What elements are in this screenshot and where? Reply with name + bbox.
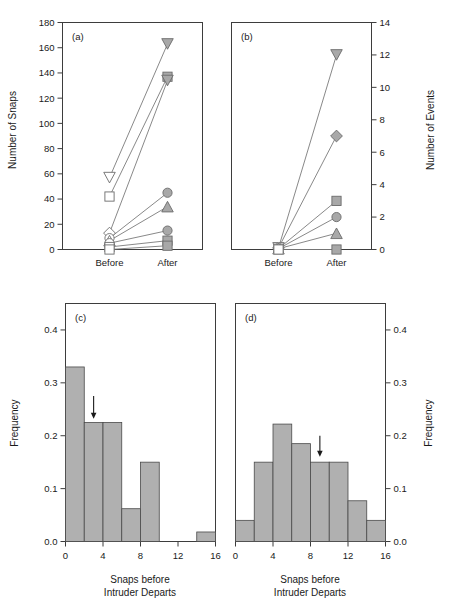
x-tick-label: 4 [100,550,105,561]
panel-d-bars [236,424,386,541]
panel-a-y-axis-title: Number of Snaps [7,91,18,169]
x-tick-label: 12 [173,550,184,561]
panel-d-x-axis-title-line2: Intruder Departs [274,587,346,598]
series-line-4 [110,193,168,238]
y-tick-label: 0.2 [44,430,57,441]
y-tick-label: 180 [39,17,55,28]
marker-circle-filled [332,212,341,221]
panel-a-tick-marks [58,23,63,250]
y-tick-label: 0.1 [44,483,57,494]
panel-a-category-labels: BeforeAfter [96,257,178,268]
panel-d-mean-marker-arrow [317,436,323,457]
x-tick-label: 8 [308,550,313,561]
marker-square-filled [332,196,341,205]
y-tick-label: 100 [39,118,55,129]
marker-triangle-up-filled [162,201,174,212]
y-tick-label: 80 [44,143,55,154]
y-tick-label: 0 [380,244,385,255]
y-tick-label: 0.4 [394,324,407,335]
y-tick-label: 8 [380,114,385,125]
y-tick-label: 0.2 [394,430,407,441]
histogram-bar [66,367,85,542]
y-tick-label: 10 [380,82,391,93]
y-tick-label: 0.4 [44,324,57,335]
y-tick-label: 6 [380,147,385,158]
y-tick-label: 0.1 [394,483,407,494]
panel-c-letter: (c) [75,312,86,323]
x-category-label-before: Before [96,257,124,268]
series-line-3 [279,201,337,249]
histogram-bar [329,462,348,541]
marker-triangle-up-filled [331,228,343,239]
panel-c-bars [66,367,216,542]
marker-circle-filled [163,188,172,197]
panel-d-y-tick-labels: 0.00.10.20.30.4 [394,324,407,547]
panel-b-category-labels: BeforeAfter [265,257,347,268]
marker-square-open [105,245,114,254]
x-tick-label: 0 [63,550,68,561]
panel-b-y-tick-labels: 02468101214 [380,17,391,255]
marker-diamond-filled [331,130,343,142]
panel-c-mean-marker-arrow [91,396,97,419]
panel-a-series-lines [110,44,168,250]
panel-b-frame [232,23,372,250]
x-tick-label: 0 [233,550,238,561]
marker-triangle-down-open [104,172,116,183]
panel-c-x-axis-title-line1: Snaps before [110,574,170,585]
marker-square-open [274,245,283,254]
y-tick-label: 14 [380,17,391,28]
y-tick-label: 4 [380,179,385,190]
panel-b-y-axis-title: Number of Events [425,90,436,170]
panel-a-line-chart: 020406080100120140160180 Number of Snaps… [0,0,226,276]
histogram-bar [141,462,160,541]
y-tick-label: 2 [380,211,385,222]
panel-a-frame [63,23,203,250]
histogram-bar [292,444,311,542]
arrow-head-icon [317,451,323,457]
histogram-bar [311,462,330,541]
histogram-bar [197,532,216,542]
panel-d-letter: (d) [245,312,257,323]
panel-b-series-lines [279,55,337,250]
y-tick-label: 0.3 [394,377,407,388]
y-tick-label: 160 [39,42,55,53]
x-category-label-after: After [157,257,177,268]
y-tick-label: 20 [44,219,55,230]
histogram-bar [348,501,367,542]
x-category-label-after: After [326,257,346,268]
histogram-bar [103,423,122,542]
arrow-head-icon [91,413,97,419]
panel-d-histogram: 0.00.10.20.30.4 0481216 Frequency (d) Sn… [225,280,451,609]
panel-a-y-tick-labels: 020406080100120140160180 [39,17,55,255]
x-tick-label: 16 [380,550,391,561]
panel-a-letter: (a) [72,31,84,42]
panel-d-x-tick-labels: 0481216 [233,550,391,561]
panel-b-tick-marks [372,23,377,250]
y-tick-label: 140 [39,67,55,78]
panel-c-x-axis-title-line2: Intruder Departs [104,587,176,598]
marker-triangle-down-filled [331,50,343,61]
panel-d-x-axis-title-line1: Snaps before [280,574,340,585]
x-category-label-before: Before [265,257,293,268]
panel-c-x-tick-labels: 0481216 [63,550,221,561]
x-tick-label: 16 [210,550,221,561]
panel-c-y-tick-labels: 0.00.10.20.30.4 [44,324,57,547]
panel-b-line-chart: 02468101214 Number of Events (b) BeforeA… [225,0,451,276]
x-tick-label: 4 [270,550,275,561]
y-tick-label: 60 [44,168,55,179]
x-tick-label: 12 [343,550,354,561]
histogram-bar [84,423,103,542]
series-line-4 [279,217,337,249]
y-tick-label: 0 [49,244,54,255]
histogram-bar [254,462,273,541]
marker-circle-filled [163,226,172,235]
y-tick-label: 0.0 [44,536,57,547]
panel-d-y-axis-title: Frequency [423,399,434,446]
y-tick-label: 0.0 [394,536,407,547]
histogram-bar [273,424,292,541]
marker-square-open [105,192,114,201]
series-line-2 [110,77,168,197]
series-line-1 [279,55,337,248]
y-tick-label: 40 [44,193,55,204]
x-tick-label: 8 [138,550,143,561]
